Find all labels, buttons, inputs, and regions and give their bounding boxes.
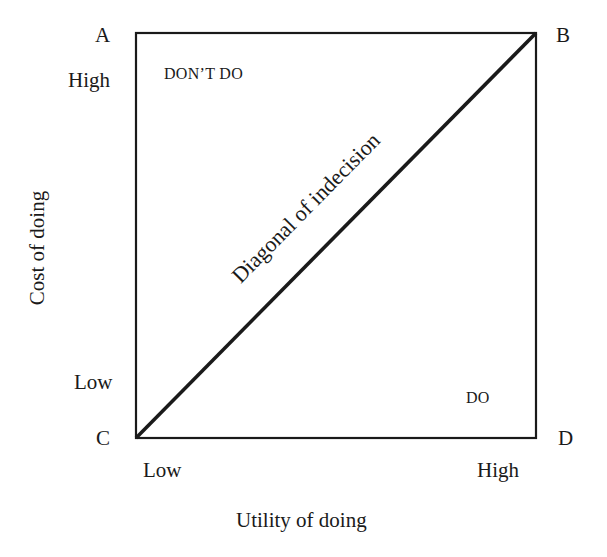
y-axis-high-label: High [68, 70, 110, 91]
x-axis-high-label: High [477, 460, 519, 481]
diagonal-of-indecision-line [136, 33, 536, 438]
corner-b-label: B [556, 25, 570, 46]
corner-a-label: A [95, 25, 110, 46]
x-axis-title: Utility of doing [236, 510, 367, 531]
y-axis-low-label: Low [74, 372, 113, 393]
y-axis-title: Cost of doing [27, 191, 48, 305]
corner-d-label: D [558, 428, 573, 449]
corner-c-label: C [96, 428, 110, 449]
x-axis-low-label: Low [143, 460, 182, 481]
region-do-label: DO [466, 390, 490, 406]
region-dont-do-label: DON’T DO [164, 66, 243, 82]
